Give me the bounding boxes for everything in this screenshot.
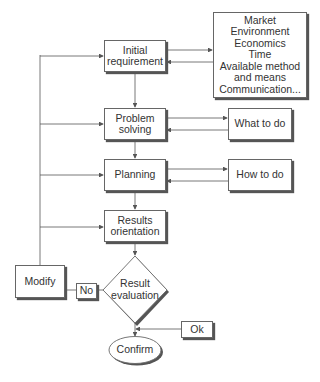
node-factors: Market Environment Economics Time Availa… — [213, 12, 307, 98]
node-how-to-do: How to do — [228, 159, 292, 191]
node-planning: Planning — [104, 159, 166, 191]
node-initial-requirement: Initial requirement — [104, 40, 166, 72]
node-problem-solving: Problem solving — [104, 108, 166, 140]
label-no: No — [76, 283, 97, 299]
node-what-to-do: What to do — [228, 108, 292, 140]
node-confirm: Confirm — [109, 344, 161, 356]
node-modify: Modify — [15, 265, 65, 298]
label-ok: Ok — [181, 321, 213, 338]
node-results-orientation: Results orientation — [104, 210, 166, 242]
node-result-evaluation: Result evaluation — [103, 278, 167, 301]
